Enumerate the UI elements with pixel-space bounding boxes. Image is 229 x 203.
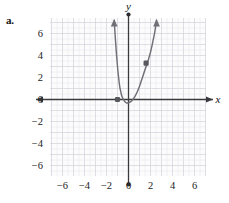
x-axis-right-arrow-icon [206, 97, 213, 103]
graph-figure: x y −6−4−20246 6420−2−4−6 [0, 0, 229, 203]
y-tick-label: 2 [38, 72, 43, 83]
x-tick-label: −6 [57, 180, 68, 191]
y-axis-top-marker-icon [126, 12, 130, 16]
x-tick-label: −2 [101, 180, 112, 191]
y-tick-label: −2 [32, 116, 43, 127]
x-axis-label: x [215, 93, 221, 105]
plotted-point-marker [144, 61, 149, 66]
x-tick-labels: −6−4−20246 [57, 180, 197, 191]
plotted-point-marker [115, 97, 120, 102]
x-tick-label: 4 [170, 180, 176, 191]
y-tick-label: 4 [38, 50, 44, 61]
x-tick-label: 0 [126, 180, 131, 191]
y-axis-label: y [125, 0, 131, 12]
y-tick-label: −6 [32, 160, 43, 171]
x-tick-label: −4 [79, 180, 91, 191]
y-tick-label: 0 [38, 94, 43, 105]
y-tick-labels: 6420−2−4−6 [32, 28, 44, 171]
y-tick-label: 6 [38, 28, 43, 39]
x-tick-label: 2 [148, 180, 153, 191]
y-tick-label: −4 [32, 138, 44, 149]
coordinate-plane-svg: x y −6−4−20246 6420−2−4−6 [0, 0, 229, 203]
x-tick-label: 6 [192, 180, 197, 191]
